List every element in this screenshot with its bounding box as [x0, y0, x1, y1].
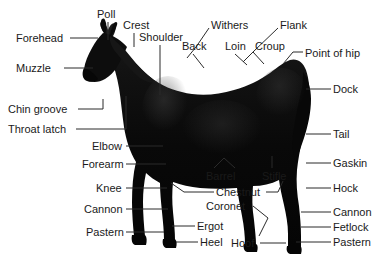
anatomy-label-hock: Hock	[333, 182, 358, 194]
leader-line-back	[193, 54, 204, 68]
leader-line-chin-groove	[78, 99, 103, 109]
anatomy-label-pastern-front: Pastern	[86, 226, 124, 238]
anatomy-label-tail: Tail	[333, 128, 350, 140]
anatomy-label-poll: Poll	[97, 8, 115, 20]
leader-line-croup	[253, 52, 264, 64]
anatomy-label-cannon-front: Cannon	[84, 203, 123, 215]
anatomy-label-ergot: Ergot	[197, 220, 223, 232]
leader-line-barrel	[214, 158, 235, 168]
leader-line-point-of-hip	[283, 52, 303, 64]
anatomy-label-elbow: Elbow	[92, 140, 122, 152]
anatomy-label-throat-latch: Throat latch	[8, 123, 66, 135]
anatomy-label-crest: Crest	[123, 19, 149, 31]
leader-line-coronet	[253, 206, 268, 236]
anatomy-label-forehead: Forehead	[16, 32, 63, 44]
anatomy-label-knee: Knee	[96, 182, 122, 194]
leader-line-chestnut-right	[266, 181, 283, 192]
anatomy-label-hoof: Hoof	[231, 237, 254, 249]
anatomy-label-back: Back	[182, 40, 206, 52]
anatomy-label-heel: Heel	[200, 236, 223, 248]
anatomy-label-point-of-hip: Point of hip	[305, 47, 360, 59]
horse-anatomy-diagram: PollCrestShoulderWithersFlankBackLoinCro…	[0, 0, 381, 257]
anatomy-label-forearm: Forearm	[82, 158, 124, 170]
anatomy-label-loin: Loin	[225, 40, 246, 52]
anatomy-label-stifle: Stifle	[262, 170, 286, 182]
anatomy-label-croup: Croup	[255, 40, 285, 52]
anatomy-label-gaskin: Gaskin	[333, 157, 367, 169]
anatomy-label-barrel: Barrel	[206, 170, 235, 182]
anatomy-label-pastern-rear: Pastern	[333, 236, 371, 248]
anatomy-label-withers: Withers	[211, 19, 248, 31]
anatomy-label-dock: Dock	[333, 83, 358, 95]
anatomy-label-coronet: Coronet	[206, 200, 245, 212]
anatomy-label-flank: Flank	[280, 19, 307, 31]
anatomy-label-cannon-rear: Cannon	[333, 206, 372, 218]
leader-line-throat-latch	[76, 96, 126, 129]
anatomy-label-chin-groove: Chin groove	[8, 103, 67, 115]
leader-line-chestnut-left	[171, 183, 214, 192]
anatomy-label-shoulder: Shoulder	[139, 31, 183, 43]
anatomy-label-fetlock: Fetlock	[333, 221, 368, 233]
anatomy-label-chestnut: Chestnut	[216, 186, 260, 198]
anatomy-label-muzzle: Muzzle	[16, 62, 51, 74]
